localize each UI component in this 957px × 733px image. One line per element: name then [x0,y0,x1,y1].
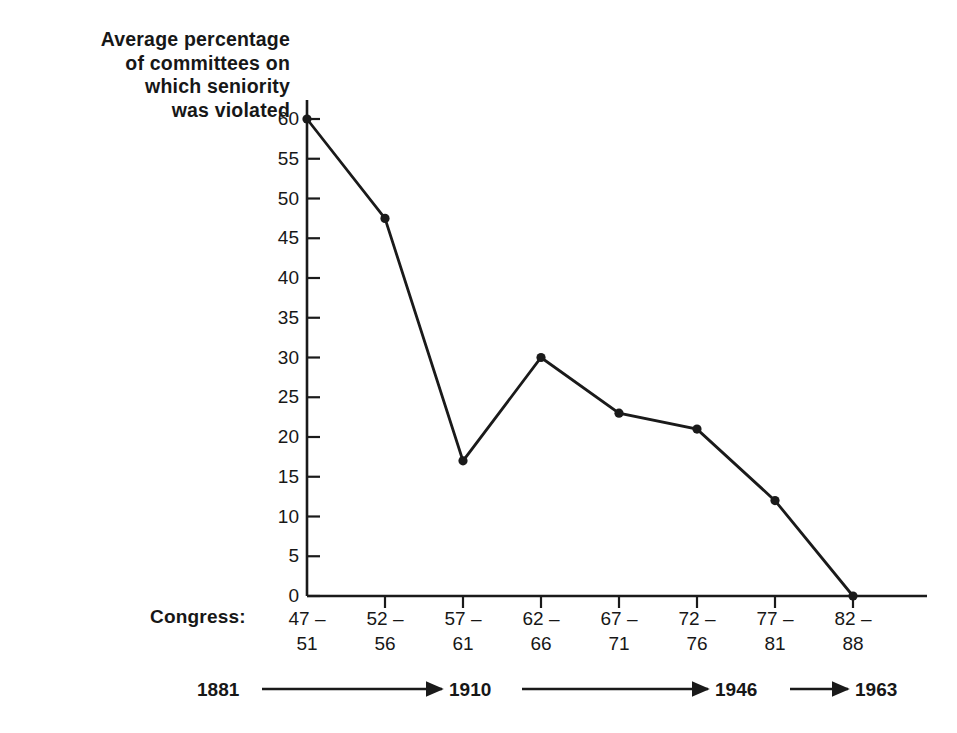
y-tick-label-0: 0 [255,586,299,605]
data-point-77-81 [770,496,779,505]
y-tick-label-5: 5 [255,546,299,565]
data-point-82-88 [848,591,857,600]
y-tick-label-55: 55 [255,149,299,168]
x-tick-label-67-71: 67 –71 [584,606,654,656]
y-tick-label-45: 45 [255,228,299,247]
data-point-57-61 [458,456,467,465]
chart-figure: Average percentage of committees on whic… [0,0,957,733]
data-point-62-66 [536,353,545,362]
y-tick-label-15: 15 [255,467,299,486]
data-point-72-76 [692,424,701,433]
data-point-52-56 [380,214,389,223]
x-tick-label-82-88: 82 –88 [818,606,888,656]
x-tick-label-62-66: 62 –66 [506,606,576,656]
series-markers [302,114,857,600]
y-tick-label-20: 20 [255,427,299,446]
x-tick-label-52-56: 52 –56 [350,606,420,656]
y-tick-label-40: 40 [255,268,299,287]
x-tick-label-72-76: 72 –76 [662,606,732,656]
series-line [307,119,853,596]
y-tick-label-35: 35 [255,308,299,327]
x-tick-label-77-81: 77 –81 [740,606,810,656]
y-tick-label-10: 10 [255,507,299,526]
x-tick-label-57-61: 57 –61 [428,606,498,656]
era-label-1963: 1963 [855,680,897,699]
y-tick-label-30: 30 [255,348,299,367]
era-label-1881: 1881 [197,680,239,699]
era-label-1946: 1946 [715,680,757,699]
data-point-47-51 [302,114,311,123]
y-tick-label-25: 25 [255,387,299,406]
x-axis-label: Congress: [150,606,246,628]
y-tick-label-50: 50 [255,189,299,208]
x-tick-label-47-51: 47 –51 [272,606,342,656]
y-axis-tick-marks [307,119,320,596]
era-label-1910: 1910 [449,680,491,699]
data-point-67-71 [614,409,623,418]
y-tick-label-60: 60 [255,109,299,128]
